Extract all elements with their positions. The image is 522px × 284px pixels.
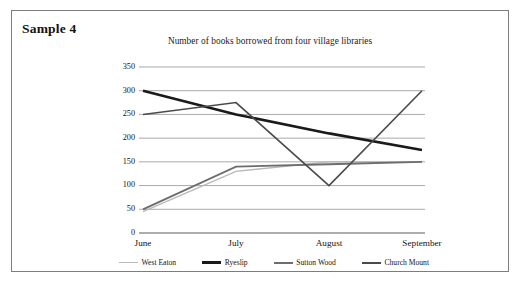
series-lines [143, 91, 422, 212]
x-axis-tick-label: September [386, 238, 458, 248]
legend-swatch-icon [362, 262, 381, 264]
legend-item-ryeslip[interactable]: Ryeslip [202, 258, 247, 267]
legend-label: Church Mount [384, 258, 429, 267]
legend-item-west-eaton[interactable]: West Eaton [119, 258, 176, 267]
y-axis-tick-label: 150 [105, 157, 135, 166]
legend-swatch-icon [202, 261, 221, 264]
y-axis-tick-label: 350 [105, 62, 135, 71]
legend-label: Ryeslip [225, 258, 248, 267]
screenshot-root: Sample 4 Number of books borrowed from f… [0, 0, 522, 284]
line-chart-svg [105, 36, 435, 246]
series-line-ryeslip [143, 91, 422, 150]
page-title: Sample 4 [22, 21, 76, 37]
legend-item-sutton-wood[interactable]: Sutton Wood [274, 258, 336, 267]
gridlines [139, 67, 425, 233]
y-axis-tick-label: 100 [105, 180, 135, 189]
y-axis-tick-label: 250 [105, 109, 135, 118]
legend-swatch-icon [274, 262, 293, 264]
y-axis-tick-label: 0 [105, 228, 135, 237]
x-axis-tick-label: June [107, 238, 179, 248]
y-axis-tick-label: 50 [105, 204, 135, 213]
series-line-west-eaton [143, 162, 422, 212]
legend-item-church-mount[interactable]: Church Mount [362, 258, 429, 267]
y-axis-tick-label: 200 [105, 133, 135, 142]
chart-plot-area [105, 36, 435, 246]
legend-swatch-icon [119, 262, 138, 263]
chart-container: Number of books borrowed from four villa… [105, 36, 435, 261]
x-axis-tick-label: August [293, 238, 365, 248]
y-axis-tick-label: 300 [105, 86, 135, 95]
x-axis-tick-label: July [200, 238, 272, 248]
chart-legend: West EatonRyeslipSutton WoodChurch Mount [119, 258, 429, 267]
legend-label: Sutton Wood [296, 258, 336, 267]
legend-label: West Eaton [142, 258, 177, 267]
